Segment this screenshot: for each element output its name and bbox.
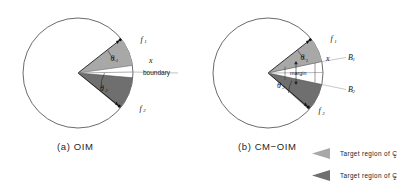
cmoim-point-f1	[309, 38, 312, 41]
legend-label-c2-subscript: 2	[394, 176, 397, 181]
panel-cm-oim: θ 1 θ 2 margin f 1 f 2 x	[213, 18, 356, 152]
cmoim-f1-subscript: 1	[334, 39, 337, 44]
oim-label-boundary: boundary	[143, 69, 171, 77]
panel-oim: θ 1 θ 2 f 1 f 2 x boundary (a	[23, 18, 178, 152]
cmoim-label-f2: f 2	[319, 106, 326, 116]
oim-label-f2: f 2	[140, 104, 147, 114]
legend: Target region of C 1 Target region of C …	[312, 148, 397, 181]
legend-label-c1: Target region of C	[340, 150, 397, 158]
cmoim-b2-subscript: 2	[353, 89, 356, 94]
legend-item-target-region-c1: Target region of C 1	[312, 148, 397, 159]
cmoim-label-f1: f 1	[331, 34, 337, 44]
oim-f2-subscript: 2	[143, 108, 146, 113]
panel-a-caption: (a) OIM	[57, 141, 93, 152]
cmoim-label-b1: B 1	[348, 53, 355, 63]
cmoim-theta1-subscript: 1	[306, 58, 309, 63]
cmoim-label-x: x	[325, 54, 330, 63]
cmoim-theta2-symbol: θ	[277, 81, 281, 90]
cmoim-f2-subscript: 2	[322, 111, 325, 116]
oim-point-f1	[119, 38, 122, 41]
cmoim-b2-leader	[322, 85, 346, 90]
cmoim-label-margin: margin	[290, 70, 306, 76]
oim-theta1-symbol: θ	[111, 54, 115, 63]
legend-swatch-c2-icon	[312, 170, 330, 181]
cmoim-label-b2: B 2	[348, 85, 356, 95]
cmoim-b1-subscript: 1	[353, 57, 356, 62]
oim-f1-subscript: 1	[144, 39, 147, 44]
oim-point-f2	[118, 105, 121, 108]
panel-b-caption: (b) CM−OIM	[238, 141, 297, 152]
oim-theta2-symbol: θ	[100, 84, 104, 93]
diagram-svg: θ 1 θ 2 f 1 f 2 x boundary (a	[0, 0, 401, 192]
cmoim-theta1-symbol: θ	[301, 53, 305, 62]
legend-item-target-region-c2: Target region of C 2	[312, 170, 397, 181]
figure-container: θ 1 θ 2 f 1 f 2 x boundary (a	[0, 0, 401, 192]
legend-label-c2: Target region of C	[340, 172, 397, 180]
legend-swatch-c1-icon	[312, 148, 330, 159]
oim-label-x: x	[148, 56, 153, 65]
oim-label-f1: f 1	[141, 35, 147, 45]
legend-label-c1-subscript: 1	[394, 154, 397, 159]
oim-theta1-subscript: 1	[116, 58, 119, 63]
cmoim-point-f2	[307, 106, 310, 109]
